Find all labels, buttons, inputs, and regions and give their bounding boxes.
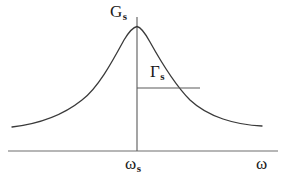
linewidth-symbol: Γ [150, 62, 160, 81]
peak-height-label: Gs [110, 3, 127, 22]
plot-canvas [0, 0, 286, 183]
frequency-axis-label: ω [256, 155, 267, 172]
center-frequency-label: ωs [125, 155, 141, 174]
linewidth-label: Γs [150, 63, 165, 82]
linewidth-subscript: s [160, 70, 164, 82]
frequency-axis-symbol: ω [256, 154, 267, 173]
peak-height-subscript: s [123, 10, 127, 22]
center-frequency-symbol: ω [125, 154, 136, 173]
spectral-peak-figure: Gs Γs ωs ω [0, 0, 286, 183]
peak-height-symbol: G [110, 2, 122, 21]
center-frequency-subscript: s [137, 162, 141, 174]
